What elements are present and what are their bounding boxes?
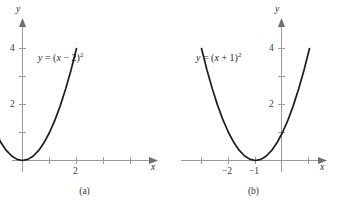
equation-equals-b: = (203, 52, 209, 63)
y-tick-label-2-b: 2 (269, 100, 274, 110)
panel-caption-a: (a) (0, 186, 169, 196)
equation-exponent-a: 2 (80, 51, 83, 58)
y-axis-label-a: y (16, 5, 20, 15)
equation-label-a: y = (x − 2)2 (38, 53, 83, 63)
y-tick-label-2-a: 2 (10, 100, 15, 110)
math-figure: y x 2 4 2 y = (x − 2)2 (a) (0, 0, 338, 204)
x-tick-label-minus1-b: −1 (249, 167, 259, 177)
y-tick-label-4-a: 4 (10, 44, 15, 54)
equation-variable-a: x (56, 52, 60, 63)
plot-b-graphics (169, 0, 338, 180)
y-axis-arrowhead-b (278, 18, 285, 27)
x-axis-label-a: x (151, 163, 155, 173)
y-axis-label-b: y (275, 5, 279, 15)
y-axis-arrowhead-a (19, 18, 26, 27)
panel-caption-b: (b) (169, 186, 338, 196)
x-axis-label-b: x (320, 163, 324, 173)
equation-lhs-b: y (196, 52, 200, 63)
x-tick-label-2-a: 2 (73, 167, 78, 177)
equation-operator-b: + (221, 52, 227, 63)
equation-variable-b: x (214, 52, 218, 63)
equation-operator-a: − (63, 52, 69, 63)
plot-panel-a: y x 2 4 2 y = (x − 2)2 (a) (0, 0, 169, 204)
parabola-curve-b (202, 49, 310, 161)
equation-label-b: y = (x + 1)2 (196, 53, 241, 63)
y-tick-label-4-b: 4 (269, 44, 274, 54)
equation-exponent-b: 2 (238, 51, 241, 58)
x-tick-label-minus2-b: −2 (222, 167, 232, 177)
equation-lhs-a: y (38, 52, 42, 63)
equation-equals-a: = (45, 52, 51, 63)
plot-panel-b: y x 2 4 −2 −1 y = (x + 1)2 (b) (169, 0, 338, 204)
plot-a-graphics (0, 0, 169, 180)
